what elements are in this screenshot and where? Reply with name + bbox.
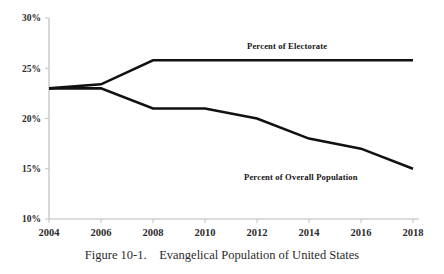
y-tick-label: 10% — [22, 214, 41, 224]
y-axis-tick-labels: 30%25%20%15%10% — [22, 13, 41, 224]
x-tick-label: 2018 — [403, 227, 424, 238]
x-tick-label: 2004 — [39, 227, 61, 238]
data-series-group — [49, 60, 413, 169]
y-tick-label: 30% — [22, 13, 41, 23]
y-tick-label: 15% — [22, 164, 41, 174]
x-axis-tick-labels: 20042006200820102012201420162018 — [39, 227, 424, 238]
x-tick-label: 2014 — [299, 227, 321, 238]
x-axis: 20042006200820102012201420162018 — [39, 219, 424, 238]
y-tick-label: 20% — [22, 114, 41, 124]
x-tick-label: 2006 — [91, 227, 112, 238]
y-tick-label: 25% — [22, 64, 41, 74]
x-tick-label: 2010 — [195, 227, 216, 238]
figure-caption: Figure 10-1. Evangelical Population of U… — [0, 248, 444, 263]
x-axis-ticks — [49, 219, 413, 223]
series-line-0 — [49, 60, 413, 88]
x-tick-label: 2016 — [351, 227, 372, 238]
series-label-overall-population: Percent of Overall Population — [244, 172, 358, 182]
y-axis: 30%25%20%15%10% — [22, 13, 49, 224]
figure-container: 30%25%20%15%10% 200420062008201020122014… — [0, 0, 444, 274]
y-axis-ticks — [45, 18, 49, 219]
chart-plot-area: 30%25%20%15%10% 200420062008201020122014… — [0, 0, 444, 246]
x-tick-label: 2012 — [247, 227, 268, 238]
series-line-1 — [49, 88, 413, 168]
x-tick-label: 2008 — [143, 227, 164, 238]
line-chart: 30%25%20%15%10% 200420062008201020122014… — [0, 0, 444, 246]
series-label-electorate: Percent of Electorate — [247, 41, 327, 51]
